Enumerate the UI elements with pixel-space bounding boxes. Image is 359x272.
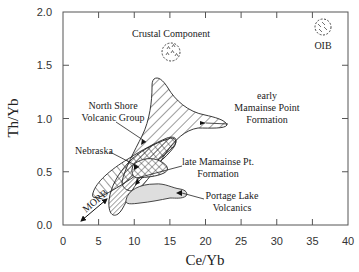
svg-text:35: 35 bbox=[306, 235, 318, 247]
svg-text:5: 5 bbox=[96, 235, 102, 247]
svg-text:25: 25 bbox=[235, 235, 247, 247]
label-crustal-component: Crustal Component bbox=[132, 28, 210, 39]
svg-text:North Shore: North Shore bbox=[88, 100, 138, 111]
x-axis-title: Ce/Yb bbox=[185, 252, 224, 268]
label-early-mamainse: early Mamainse Point Formation bbox=[234, 90, 299, 125]
oib-symbol bbox=[315, 19, 331, 35]
svg-text:0: 0 bbox=[60, 235, 66, 247]
svg-text:20: 20 bbox=[199, 235, 211, 247]
svg-text:0.5: 0.5 bbox=[37, 166, 52, 178]
svg-text:Mamainse Point: Mamainse Point bbox=[234, 102, 299, 113]
svg-text:40: 40 bbox=[342, 235, 354, 247]
label-nebraska: Nebraska bbox=[75, 145, 113, 156]
svg-text:30: 30 bbox=[271, 235, 283, 247]
svg-text:1.0: 1.0 bbox=[37, 113, 52, 125]
svg-text:Formation: Formation bbox=[197, 168, 239, 179]
x-tick-labels: 0 5 10 15 20 25 30 35 40 bbox=[60, 235, 354, 247]
svg-text:15: 15 bbox=[164, 235, 176, 247]
label-portage-lake: Portage Lake Volcanics bbox=[205, 190, 259, 213]
svg-text:early: early bbox=[257, 90, 277, 101]
svg-text:1.5: 1.5 bbox=[37, 59, 52, 71]
label-north-shore: North Shore Volcanic Group bbox=[82, 100, 145, 123]
svg-text:Volcanic Group: Volcanic Group bbox=[82, 112, 145, 123]
label-oib: OIB bbox=[314, 40, 332, 51]
crustal-component-symbol bbox=[162, 43, 180, 61]
svg-text:Formation: Formation bbox=[246, 114, 288, 125]
svg-text:10: 10 bbox=[128, 235, 140, 247]
field-late-mamainse bbox=[132, 159, 168, 178]
y-tick-labels: 0.0 0.5 1.0 1.5 2.0 bbox=[37, 6, 52, 231]
chart: 0 5 10 15 20 25 30 35 40 0.0 0.5 1.0 1.5… bbox=[0, 0, 359, 272]
svg-text:Volcanics: Volcanics bbox=[213, 202, 252, 213]
svg-text:Portage Lake: Portage Lake bbox=[205, 190, 259, 201]
svg-text:0.0: 0.0 bbox=[37, 219, 52, 231]
label-late-mamainse: late Mamainse Pt. Formation bbox=[182, 156, 254, 179]
svg-text:2.0: 2.0 bbox=[37, 6, 52, 18]
svg-text:late Mamainse Pt.: late Mamainse Pt. bbox=[182, 156, 254, 167]
y-axis-title: Th/Yb bbox=[5, 98, 21, 137]
